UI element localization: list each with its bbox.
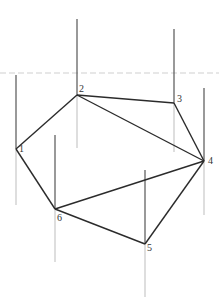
node-label-5: 5 [147,242,152,253]
edge-6-1 [16,149,55,209]
graph-edges [16,95,204,244]
node-stems [16,19,204,297]
edge-4-5 [145,161,204,244]
node-label-4: 4 [208,155,213,166]
edge-2-4 [77,95,204,161]
edge-3-4 [174,103,204,161]
edge-4-6 [55,161,204,209]
edge-1-2 [16,95,77,149]
node-label-1: 1 [19,143,24,154]
node-label-2: 2 [79,83,84,94]
edge-5-6 [55,209,145,244]
node-label-6: 6 [57,212,62,223]
graph-diagram: 123456 [0,0,219,307]
node-label-3: 3 [177,93,182,104]
